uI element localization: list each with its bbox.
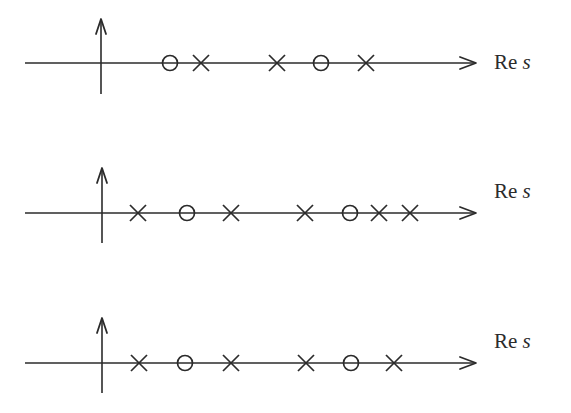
s-variable: s xyxy=(523,329,531,353)
re-text: Re xyxy=(494,50,517,74)
re-s-label-row-3: Re s xyxy=(494,331,531,352)
re-s-label-row-1: Re s xyxy=(494,52,531,73)
re-s-label-row-2: Re s xyxy=(494,181,531,202)
pole-zero-row-2 xyxy=(25,168,476,243)
re-text: Re xyxy=(494,329,517,353)
pole-zero-row-3 xyxy=(25,318,476,393)
re-text: Re xyxy=(494,179,517,203)
pole-zero-row-1 xyxy=(25,19,476,94)
pole-zero-diagram xyxy=(0,0,571,413)
s-variable: s xyxy=(523,50,531,74)
s-variable: s xyxy=(523,179,531,203)
